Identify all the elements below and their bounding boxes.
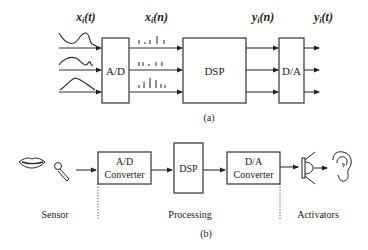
dac-converter-label-2: Converter <box>234 169 275 180</box>
stage-label-processing: Processing <box>168 209 211 220</box>
ear-icon <box>333 152 351 181</box>
adc-block: A/D <box>102 38 129 103</box>
label-yi-t: yi(t) <box>312 10 333 25</box>
waveform-1 <box>59 33 96 46</box>
caption-a: (a) <box>203 112 214 124</box>
dsp-system-diagram: xi(t) xi(n) yi(n) yi(t) A/D <box>0 0 368 250</box>
dsp-block-b: DSP <box>174 143 203 193</box>
adc-converter-label-1: A/D <box>116 156 133 167</box>
label-yi-n: yi(n) <box>250 10 274 25</box>
dsp-block: DSP <box>183 38 246 103</box>
dac-label: D/A <box>282 65 301 77</box>
dac-converter-block: D/A Converter <box>227 152 280 184</box>
label-xi-n: xi(n) <box>144 10 168 25</box>
dsp-label: DSP <box>204 65 224 77</box>
dsp-label-b: DSP <box>179 163 198 174</box>
waveform-3 <box>60 78 95 90</box>
sample-sequences <box>139 36 165 88</box>
adc-label: A/D <box>106 65 125 77</box>
speaker-icon <box>302 152 315 184</box>
label-xi-t: xi(t) <box>75 10 96 25</box>
dac-block: D/A <box>279 38 304 103</box>
caption-b: (b) <box>200 228 212 240</box>
microphone-icon <box>55 163 70 182</box>
stage-label-activators: Activators <box>297 209 339 220</box>
figure-a: xi(t) xi(n) yi(n) yi(t) A/D <box>59 10 333 124</box>
figure-b: A/D Converter DSP D/A Converter <box>19 143 351 240</box>
stage-label-sensor: Sensor <box>41 209 69 220</box>
lips-icon <box>19 158 45 168</box>
analog-waveforms <box>59 33 96 90</box>
adc-converter-block: A/D Converter <box>98 152 151 184</box>
dac-converter-label-1: D/A <box>245 156 263 167</box>
adc-converter-label-2: Converter <box>105 169 146 180</box>
waveform-2 <box>59 57 93 65</box>
